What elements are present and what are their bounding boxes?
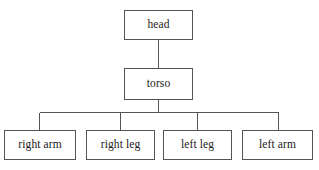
node-torso: torso (124, 68, 193, 100)
node-left-arm: left arm (242, 130, 313, 160)
node-right-leg-label: right leg (101, 139, 141, 152)
node-left-arm-label: left arm (259, 139, 296, 152)
tree-diagram: head torso right arm right leg left leg … (0, 0, 319, 170)
node-right-arm-label: right arm (18, 139, 61, 152)
node-right-leg: right leg (86, 130, 155, 160)
node-head: head (124, 10, 193, 40)
node-left-leg: left leg (163, 130, 232, 160)
node-left-leg-label: left leg (181, 139, 214, 152)
node-right-arm: right arm (4, 130, 76, 160)
node-head-label: head (147, 19, 169, 32)
node-torso-label: torso (147, 78, 171, 91)
